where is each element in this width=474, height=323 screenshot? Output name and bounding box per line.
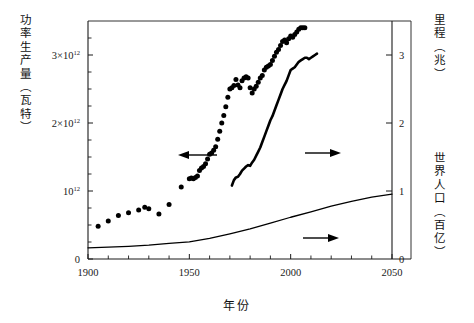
svg-text:2: 2 [399, 118, 404, 129]
left-axis-ticklabels: 010122×10123×1012 [52, 49, 80, 265]
svg-text:2050: 2050 [382, 267, 403, 278]
plot-frame [88, 21, 411, 259]
arrow-to-right-axis-mileage [305, 149, 341, 157]
right-axis-ticks [386, 55, 392, 191]
series-power-production [96, 25, 308, 229]
svg-text:2000: 2000 [280, 267, 301, 278]
svg-text:1012: 1012 [63, 185, 80, 197]
series-world-population [88, 194, 392, 248]
chart-figure: 010122×10123×1012 0123 1900195020002050 … [0, 0, 474, 323]
chart-canvas: 010122×10123×1012 0123 1900195020002050 [0, 0, 474, 323]
right-axis-label-population: 世界人口（百亿） [432, 152, 444, 292]
right-axis-label-mileage: 里程（兆） [432, 14, 444, 134]
svg-text:0: 0 [399, 254, 404, 265]
svg-text:3×1012: 3×1012 [52, 49, 80, 61]
svg-text:1900: 1900 [78, 267, 99, 278]
svg-text:1: 1 [399, 186, 404, 197]
left-axis-ticks [88, 38, 93, 259]
x-axis-label: 年份 [0, 296, 474, 313]
svg-text:0: 0 [75, 254, 80, 265]
series-mileage [232, 54, 317, 186]
left-axis-label: 功率生产量（瓦特） [18, 14, 30, 254]
x-axis-ticks [88, 254, 392, 259]
right-axis-ticklabels: 0123 [399, 50, 404, 265]
svg-text:2×1012: 2×1012 [52, 117, 80, 129]
svg-text:3: 3 [399, 50, 404, 61]
arrow-to-right-axis-population [303, 234, 339, 242]
x-axis-ticklabels: 1900195020002050 [78, 267, 403, 278]
svg-text:1950: 1950 [179, 267, 200, 278]
